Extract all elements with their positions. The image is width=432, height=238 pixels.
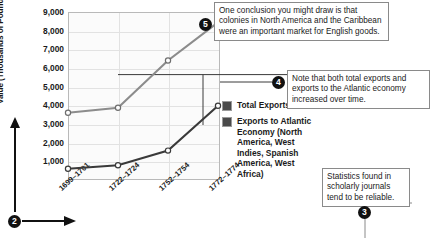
callout-box-4: Note that both total exports and exports… [287, 70, 430, 109]
callout-marker-3[interactable]: 3 [358, 206, 371, 219]
callout-marker-5[interactable]: 5 [199, 18, 212, 31]
x-tick-1699-1701: 1699–1701 [57, 161, 91, 193]
callout-box-3: Statistics found in scholarly journals t… [322, 168, 410, 207]
callout-marker-2[interactable]: 2 [8, 215, 21, 228]
legend-swatch-icon-atlantic-economy [222, 117, 232, 127]
legend-swatch-icon-total-exports [222, 101, 232, 111]
x-tick-1752-1754: 1752–1754 [157, 161, 191, 193]
callout-box-5: One conclusion you might draw is that co… [214, 2, 389, 41]
cropped-caption-text [28, 231, 358, 238]
x-tick-1722-1724: 1722–1724 [107, 161, 141, 193]
legend-label-atlantic-economy: Exports to Atlantic Economy (North Ameri… [237, 116, 318, 179]
chart-legend: Total Exports Exports to Atlantic Econom… [222, 100, 318, 184]
chart-figure: Value (Thousands of Pounds Sterling) 9,0… [0, 0, 432, 238]
legend-item-atlantic-economy: Exports to Atlantic Economy (North Ameri… [222, 116, 318, 179]
legend-label-total-exports: Total Exports [237, 100, 290, 111]
callout-marker-4[interactable]: 4 [272, 76, 285, 89]
